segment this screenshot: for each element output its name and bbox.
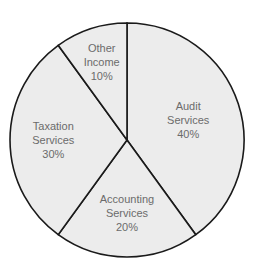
pie-chart: AuditServices40%AccountingServices20%Tax… — [0, 0, 253, 272]
